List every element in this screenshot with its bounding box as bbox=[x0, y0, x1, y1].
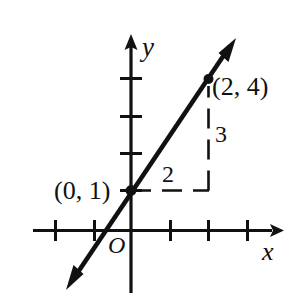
y-axis-label: y bbox=[139, 32, 154, 62]
rise-length-label: 3 bbox=[215, 121, 227, 147]
coordinate-graph: y x O (0, 1) (2, 4) 2 3 bbox=[0, 0, 300, 301]
x-axis-label: x bbox=[261, 237, 274, 266]
point-label-second-point: (2, 4) bbox=[212, 72, 268, 101]
point-label-y-intercept: (0, 1) bbox=[54, 176, 110, 205]
run-length-label: 2 bbox=[162, 161, 174, 187]
point-marker-0-1 bbox=[126, 185, 137, 196]
origin-label: O bbox=[108, 232, 125, 258]
figure-root: y x O (0, 1) (2, 4) 2 3 bbox=[0, 0, 300, 301]
